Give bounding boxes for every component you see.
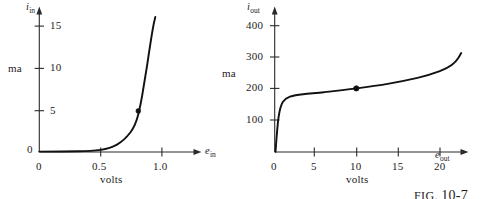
operating-point-marker (354, 86, 359, 91)
x-tick-label-15: 15 (392, 161, 403, 172)
x-tick-label-0-5: 0.5 (92, 161, 106, 172)
y-axis-symbol-sub: out (250, 6, 260, 15)
input-curve (39, 17, 155, 152)
x-axis-arrow-icon (194, 149, 202, 155)
chart-output-characteristic: iout eout ma volts 100 200 300 400 0 5 1… (241, 0, 482, 199)
y-tick-label-15: 15 (50, 20, 61, 31)
figure-caption: FIG. 10-7 (414, 188, 468, 199)
x-tick-label-5: 5 (311, 161, 317, 172)
x-axis-arrow-icon (461, 149, 469, 155)
y-axis-arrow-icon (36, 7, 42, 15)
x-unit-label: volts (346, 174, 368, 185)
y-tick-label-200: 200 (246, 82, 263, 93)
y-tick-label-300: 300 (246, 51, 263, 62)
x-tick-label-0: 0 (271, 161, 277, 172)
figure-caption-number: 10-7 (441, 188, 468, 199)
y-tick-label-100: 100 (246, 114, 263, 125)
x-tick-label-0: 0 (36, 161, 42, 172)
y-tick-label-400: 400 (246, 20, 263, 31)
y-unit-label: ma (8, 63, 22, 74)
x-tick-label-10: 10 (350, 161, 361, 172)
operating-point-marker (136, 109, 141, 114)
output-curve (276, 53, 462, 152)
x-unit-label: volts (100, 174, 122, 185)
y-axis-symbol-sub: in (29, 6, 35, 15)
x-tick-label-1-0: 1.0 (153, 161, 167, 172)
y-axis-arrow-icon (272, 7, 278, 15)
figure-10-7: iin ein ma volts 0 5 10 15 0 0.5 1.0 (0, 0, 482, 199)
y-axis-symbol-label: iin (26, 2, 35, 15)
y-tick-label-5: 5 (50, 105, 56, 116)
y-axis-symbol-label: iout (247, 2, 260, 15)
x-axis-symbol-label: ein (205, 146, 216, 159)
y-tick-label-10: 10 (50, 62, 61, 73)
x-tick-label-20: 20 (434, 161, 445, 172)
x-axis-symbol-sub: in (210, 150, 216, 159)
chart-input-characteristic: iin ein ma volts 0 5 10 15 0 0.5 1.0 (0, 0, 241, 199)
y-tick-label-0: 0 (27, 144, 33, 155)
y-unit-label: ma (222, 68, 236, 79)
output-chart-svg (241, 0, 482, 199)
figure-caption-label: FIG. (414, 189, 438, 199)
